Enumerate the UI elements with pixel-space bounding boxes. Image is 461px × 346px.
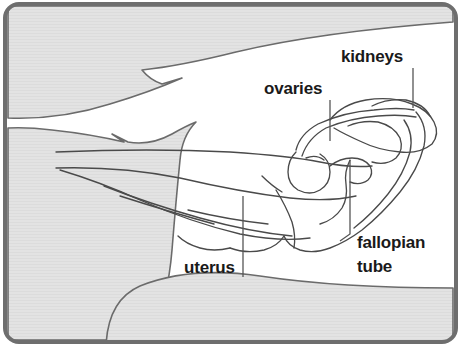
label-kidneys: kidneys bbox=[341, 47, 403, 66]
anatomy-diagram-svg: kidneys ovaries fallopian tube uterus bbox=[0, 0, 461, 346]
diagram-container: kidneys ovaries fallopian tube uterus bbox=[0, 0, 461, 346]
label-fallopian-tube-line1: fallopian bbox=[357, 233, 425, 252]
label-uterus: uterus bbox=[184, 258, 235, 277]
label-fallopian-tube-line2: tube bbox=[357, 257, 392, 276]
label-ovaries: ovaries bbox=[264, 79, 322, 98]
